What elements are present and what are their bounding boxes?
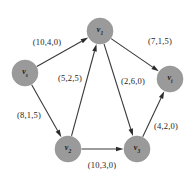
edge-label-v2-to-v3: (10,3,0) xyxy=(88,161,117,170)
edges-layer xyxy=(32,38,165,152)
node-v2[interactable] xyxy=(55,136,81,162)
arrow-head-icon xyxy=(159,91,164,99)
edge-line xyxy=(143,98,161,137)
network-flow-diagram: v1vsvtv2v3 (10,4,0)(8,1,5)(5,2,5)(10,3,0… xyxy=(0,0,191,175)
edge-v2-to-v1 xyxy=(72,44,97,136)
arrow-head-icon xyxy=(56,130,62,138)
edge-line xyxy=(72,51,95,136)
node-vs[interactable] xyxy=(12,60,38,86)
edge-line xyxy=(104,44,131,129)
graph-canvas xyxy=(0,0,191,175)
edge-line xyxy=(32,85,58,131)
arrow-head-icon xyxy=(151,65,158,71)
node-v1[interactable] xyxy=(87,18,113,44)
edge-label-v1-to-vt: (7,1,5) xyxy=(148,37,172,46)
arrow-head-icon xyxy=(81,38,89,44)
edge-v2-to-v3 xyxy=(82,147,124,152)
edge-label-vs-to-v2: (8,1,5) xyxy=(17,111,41,120)
node-v3[interactable] xyxy=(124,136,150,162)
edge-label-v3-to-vt: (4,2,0) xyxy=(154,122,178,131)
node-vt[interactable] xyxy=(157,66,183,92)
edge-label-v1-to-v3: (2,6,0) xyxy=(121,77,145,86)
arrow-head-icon xyxy=(129,128,133,136)
arrow-head-icon xyxy=(92,44,96,52)
edge-line xyxy=(111,39,153,67)
edge-v1-to-v3 xyxy=(104,44,133,136)
edge-label-v2-to-v1: (5,2,5) xyxy=(58,74,82,83)
edge-label-vs-to-v1: (10,4,0) xyxy=(33,38,62,47)
arrow-head-icon xyxy=(116,147,124,152)
